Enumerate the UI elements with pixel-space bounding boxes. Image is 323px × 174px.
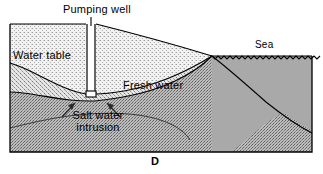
label-water-table: Water table — [13, 49, 71, 61]
label-fresh-water: Fresh water — [123, 79, 183, 91]
pumping-well-shaft — [86, 24, 96, 97]
well-screen-box — [86, 91, 96, 97]
label-pumping-well: Pumping well — [63, 3, 131, 15]
hydrogeology-cross-section-figure: Pumping well Water table Fresh water Sea… — [0, 0, 323, 174]
panel-letter: D — [151, 155, 159, 167]
label-sea: Sea — [255, 39, 273, 50]
label-salt-water-intrusion: Salt water intrusion — [60, 109, 136, 133]
well-bore-fill — [87, 24, 95, 94]
